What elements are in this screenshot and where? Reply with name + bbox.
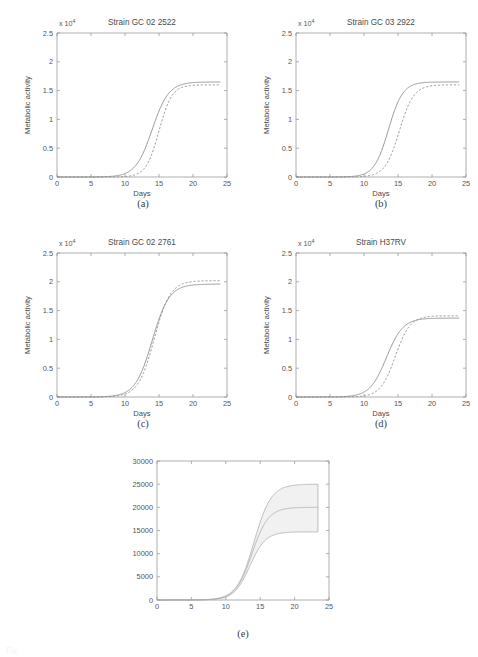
x-axis-label: Days — [133, 409, 151, 418]
x-tick-label: 25 — [462, 399, 470, 408]
x-tick-label: 15 — [155, 179, 163, 188]
y-tick-label: 1.5 — [282, 86, 292, 95]
chart-panel-a: 051015202500.511.522.5Strain GC 02 2522D… — [0, 0, 239, 220]
x-tick-label: 20 — [189, 399, 197, 408]
sublabel-a: (a) — [123, 198, 163, 209]
figure-caption-partial: Fig. — [6, 646, 19, 655]
y-tick-label: 2.5 — [282, 249, 292, 258]
x-tick-label: 25 — [325, 602, 333, 611]
x-tick-label: 25 — [223, 179, 231, 188]
y-tick-label: 0.5 — [43, 144, 53, 153]
x-tick-label: 5 — [328, 179, 332, 188]
series-curve — [296, 318, 459, 397]
x-tick-label: 10 — [222, 602, 230, 611]
x-tick-label: 10 — [360, 179, 368, 188]
y-tick-label: 2 — [49, 277, 53, 286]
y-tick-label: 15000 — [132, 526, 153, 535]
y-tick-label: 1.5 — [282, 306, 292, 315]
sublabel-c: (c) — [123, 418, 163, 429]
sublabel-e: (e) — [223, 628, 263, 639]
y-tick-label: 0.5 — [282, 364, 292, 373]
x-tick-label: 10 — [121, 399, 129, 408]
panel-title: Strain H37RV — [356, 238, 406, 247]
y-tick-label: 2.5 — [43, 29, 53, 38]
panel-title: Strain GC 02 2761 — [108, 238, 176, 247]
chart-panel-e: 0510152025050001000015000200002500030000 — [100, 448, 390, 633]
figure-panel-grid: 051015202500.511.522.5Strain GC 02 2522D… — [0, 0, 478, 657]
x-tick-label: 0 — [55, 399, 59, 408]
y-axis-label: Metabolic activity — [262, 76, 271, 134]
series-curve — [57, 284, 220, 397]
x-tick-label: 15 — [256, 602, 264, 611]
series-curve — [296, 82, 459, 177]
x-tick-label: 20 — [428, 399, 436, 408]
axis-box — [296, 253, 466, 397]
y-axis-label: Metabolic activity — [23, 76, 32, 134]
panel-title: Strain GC 02 2522 — [108, 18, 176, 27]
y-tick-label: 20000 — [132, 503, 153, 512]
x-axis-label: Days — [372, 189, 390, 198]
sublabel-b: (b) — [361, 198, 401, 209]
plot-area-b: 051015202500.511.522.5Strain GC 03 2922D… — [239, 0, 478, 220]
y-tick-label: 0.5 — [43, 364, 53, 373]
x-tick-label: 10 — [121, 179, 129, 188]
y-tick-label: 0 — [288, 173, 292, 182]
panel-title: Strain GC 03 2922 — [347, 18, 415, 27]
x-tick-label: 25 — [462, 179, 470, 188]
plot-area-c: 051015202500.511.522.5Strain GC 02 2761D… — [0, 220, 239, 440]
axis-exponent-label: x 104 — [298, 238, 315, 248]
x-tick-label: 0 — [294, 179, 298, 188]
x-tick-label: 25 — [223, 399, 231, 408]
axis-box — [296, 33, 466, 177]
x-tick-label: 10 — [360, 399, 368, 408]
series-curve — [296, 85, 459, 177]
sublabel-d: (d) — [361, 418, 401, 429]
axis-exponent-label: x 104 — [59, 18, 76, 28]
x-tick-label: 5 — [189, 602, 193, 611]
x-tick-label: 5 — [328, 399, 332, 408]
y-axis-label: Metabolic activity — [23, 296, 32, 354]
y-tick-label: 0 — [149, 596, 153, 605]
chart-panel-d: 051015202500.511.522.5Strain H37RVDaysMe… — [239, 220, 478, 440]
chart-panel-b: 051015202500.511.522.5Strain GC 03 2922D… — [239, 0, 478, 220]
series-curve — [57, 82, 220, 177]
x-axis-label: Days — [133, 189, 151, 198]
y-tick-label: 2 — [49, 57, 53, 66]
plot-area-e: 0510152025050001000015000200002500030000 — [100, 448, 390, 633]
y-tick-label: 2.5 — [282, 29, 292, 38]
y-tick-label: 1.5 — [43, 86, 53, 95]
x-tick-label: 0 — [55, 179, 59, 188]
x-tick-label: 5 — [89, 179, 93, 188]
y-tick-label: 30000 — [132, 457, 153, 466]
y-tick-label: 0 — [49, 173, 53, 182]
series-curve — [57, 85, 220, 177]
x-tick-label: 0 — [294, 399, 298, 408]
x-tick-label: 5 — [89, 399, 93, 408]
y-tick-label: 10000 — [132, 549, 153, 558]
y-tick-label: 0 — [288, 393, 292, 402]
x-tick-label: 20 — [189, 179, 197, 188]
y-tick-label: 2.5 — [43, 249, 53, 258]
axis-box — [57, 253, 227, 397]
plot-area-a: 051015202500.511.522.5Strain GC 02 2522D… — [0, 0, 239, 220]
x-tick-label: 15 — [394, 399, 402, 408]
x-axis-label: Days — [372, 409, 390, 418]
y-tick-label: 25000 — [132, 480, 153, 489]
y-tick-label: 5000 — [137, 572, 153, 581]
x-tick-label: 20 — [428, 179, 436, 188]
series-curve — [296, 316, 459, 397]
x-tick-label: 20 — [290, 602, 298, 611]
y-tick-label: 0 — [49, 393, 53, 402]
axis-exponent-label: x 104 — [59, 238, 76, 248]
y-tick-label: 1 — [49, 335, 53, 344]
chart-panel-c: 051015202500.511.522.5Strain GC 02 2761D… — [0, 220, 239, 440]
series-curve — [57, 281, 220, 397]
y-axis-label: Metabolic activity — [262, 296, 271, 354]
x-tick-label: 15 — [155, 399, 163, 408]
uncertainty-band — [157, 484, 318, 600]
plot-area-d: 051015202500.511.522.5Strain H37RVDaysMe… — [239, 220, 478, 440]
y-tick-label: 1.5 — [43, 306, 53, 315]
x-tick-label: 15 — [394, 179, 402, 188]
y-tick-label: 1 — [288, 115, 292, 124]
y-tick-label: 2 — [288, 57, 292, 66]
